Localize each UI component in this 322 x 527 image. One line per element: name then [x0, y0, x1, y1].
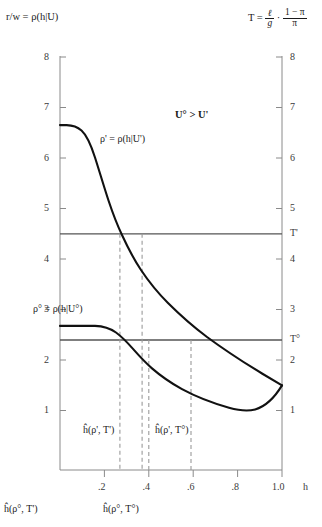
left-tick-label-6: 6 — [44, 152, 49, 163]
annotation-h-rho-circ-T-prime: ĥ(ρ°, T') — [4, 503, 38, 514]
x-tick-label-0-8: .8 — [232, 481, 240, 492]
right-tick-label-4: 4 — [290, 253, 295, 264]
right-tick-label-3: 3 — [290, 303, 295, 314]
left-tick-label-5: 5 — [44, 202, 49, 213]
right-tick-label-6: 6 — [290, 152, 295, 163]
right-tick-label-5: 5 — [290, 202, 295, 213]
hline-label-T-prime: T' — [290, 227, 298, 238]
left-tick-label-4: 4 — [44, 253, 49, 264]
curve-rho-circ — [60, 326, 282, 411]
x-axis-ticks — [104, 470, 282, 477]
left-tick-label-1: 1 — [44, 404, 49, 415]
label-curve-rho-circ: ρ° = ρ(h|U°) — [33, 303, 83, 314]
right-tick-label-2: 2 — [290, 354, 295, 365]
left-tick-label-8: 8 — [44, 51, 49, 62]
right-tick-label-8: 8 — [290, 51, 295, 62]
left-tick-label-7: 7 — [44, 101, 49, 112]
label-curve-rho-prime: ρ' = ρ(h|U') — [100, 133, 145, 144]
x-tick-label-0-4: .4 — [143, 481, 151, 492]
figure-canvas: r/w = ρ(h|U) T = ℓ g · 1 − π π — [0, 0, 322, 527]
curve-rho-prime — [60, 125, 282, 385]
x-tick-label-0-2: .2 — [98, 481, 106, 492]
x-tick-label-1-0: 1.0 — [272, 481, 285, 492]
annotation-inequality: U° > U' — [175, 109, 209, 120]
x-tick-label-0-6: .6 — [187, 481, 195, 492]
hline-label-T-circ: T° — [290, 333, 300, 344]
annotation-h-rho-prime-T-prime: ĥ(ρ', T') — [83, 424, 114, 435]
annotation-h-rho-prime-T-circ: ĥ(ρ', T°) — [155, 424, 189, 435]
right-tick-label-7: 7 — [290, 101, 295, 112]
plot-area — [0, 0, 322, 527]
left-tick-label-2: 2 — [44, 354, 49, 365]
annotation-h-rho-circ-T-circ: ĥ(ρ°, T°) — [103, 503, 139, 514]
right-tick-label-1: 1 — [290, 404, 295, 415]
x-axis-label: h — [303, 481, 308, 492]
